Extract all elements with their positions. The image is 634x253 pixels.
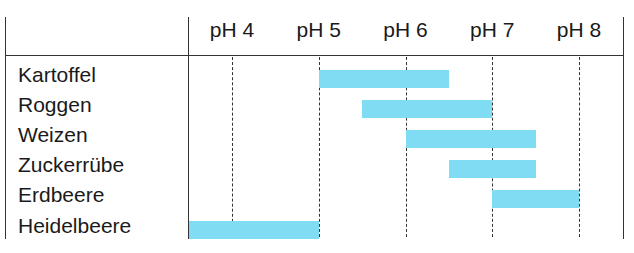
x-tick-label: pH 6	[383, 17, 427, 43]
header-divider	[5, 55, 624, 56]
category-label: Zuckerrübe	[18, 152, 124, 178]
gridline	[232, 57, 233, 237]
range-bar	[492, 190, 579, 208]
x-tick-label: pH 5	[297, 17, 341, 43]
category-label: Roggen	[18, 92, 92, 118]
right-border	[623, 17, 624, 239]
category-label: Heidelbeere	[18, 213, 131, 239]
range-bar	[362, 100, 492, 118]
range-bar	[449, 160, 536, 178]
left-border	[5, 17, 6, 239]
category-label: Erdbeere	[18, 182, 104, 208]
category-label: Weizen	[18, 122, 88, 148]
x-tick-label: pH 4	[210, 17, 254, 43]
x-tick-label: pH 7	[470, 17, 514, 43]
label-column-divider	[188, 17, 189, 239]
gridline	[579, 57, 580, 237]
x-tick-label: pH 8	[557, 17, 601, 43]
range-bar	[319, 70, 449, 88]
range-bar	[189, 221, 319, 239]
range-bar	[406, 130, 536, 148]
category-label: Kartoffel	[18, 62, 96, 88]
